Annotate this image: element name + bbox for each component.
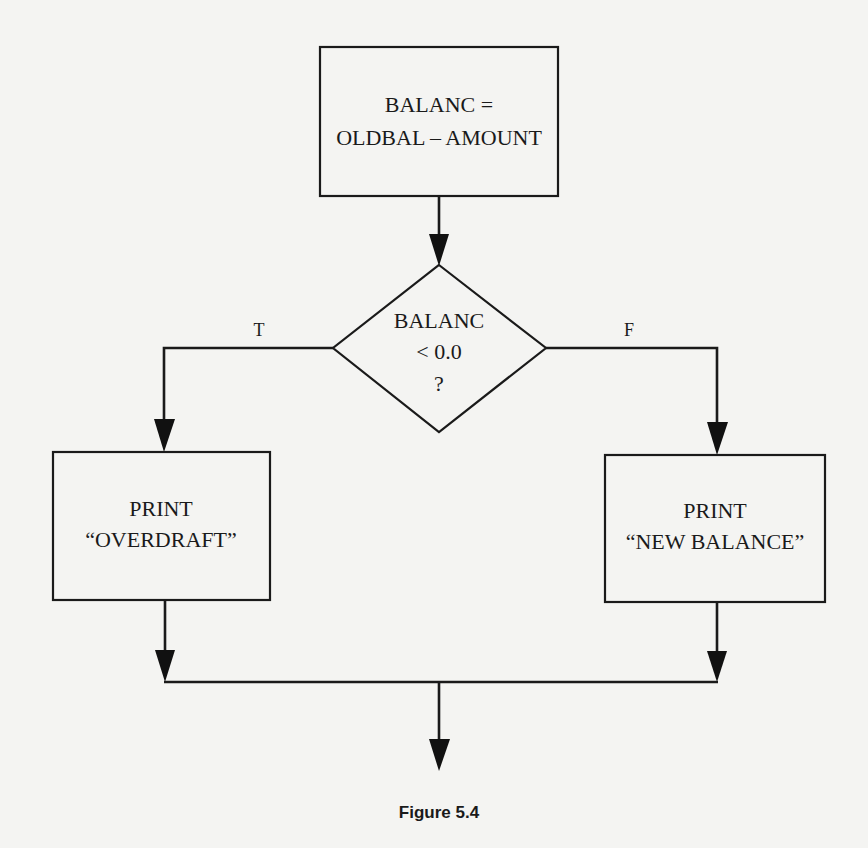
edge-overdraft-to-merge — [155, 600, 175, 682]
edge-new-balance-to-merge — [707, 602, 727, 682]
arrow-down-icon — [707, 422, 728, 455]
edge-decision-true: T — [154, 320, 333, 452]
edge-decision-false: F — [546, 320, 728, 455]
decision-line-1: BALANC — [394, 308, 484, 333]
arrow-down-icon — [429, 739, 450, 771]
arrow-down-icon — [155, 650, 175, 682]
process-box — [320, 47, 558, 196]
edge-process-to-decision — [429, 196, 449, 266]
print-new-balance-line-2: “NEW BALANCE” — [626, 529, 805, 554]
decision-line-2: < 0.0 — [416, 339, 461, 364]
print-overdraft-line-1: PRINT — [129, 496, 193, 521]
connector-line — [164, 348, 333, 425]
figure-caption: Figure 5.4 — [399, 803, 480, 822]
decision-line-3: ? — [434, 371, 444, 396]
branch-label-false: F — [624, 320, 634, 340]
print-new-balance-line-1: PRINT — [683, 498, 747, 523]
print-overdraft-node: PRINT “OVERDRAFT” — [53, 452, 270, 600]
flowchart-canvas: BALANC = OLDBAL – AMOUNT BALANC < 0.0 ? … — [0, 0, 868, 848]
print-new-balance-node: PRINT “NEW BALANCE” — [605, 455, 825, 602]
print-overdraft-box — [53, 452, 270, 600]
process-line-2: OLDBAL – AMOUNT — [336, 125, 542, 150]
process-line-1: BALANC = — [385, 92, 493, 117]
arrow-down-icon — [707, 651, 727, 682]
decision-node: BALANC < 0.0 ? — [333, 265, 546, 432]
process-node: BALANC = OLDBAL – AMOUNT — [320, 47, 558, 196]
arrow-down-icon — [154, 419, 175, 452]
connector-line — [546, 348, 717, 428]
arrow-down-icon — [429, 234, 449, 266]
edge-merge-to-exit — [429, 682, 450, 771]
branch-label-true: T — [254, 320, 265, 340]
print-overdraft-line-2: “OVERDRAFT” — [85, 527, 237, 552]
